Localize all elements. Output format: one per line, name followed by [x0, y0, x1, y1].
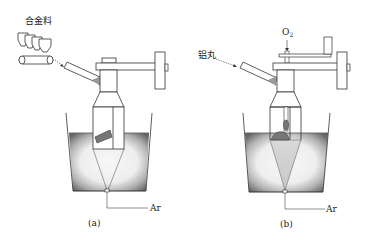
argon-line: [107, 192, 148, 208]
argon-label-b: Ar: [326, 205, 337, 214]
snorkel-neck-b: [277, 70, 294, 92]
panel-a: [18, 33, 168, 208]
top-cap: [102, 58, 116, 63]
alloy-material-label: 合金料: [25, 17, 52, 26]
counterweight-disc-b: [337, 52, 347, 89]
oxygen-subscript: 2: [289, 31, 293, 38]
snorkel-flare-b: [270, 92, 301, 107]
snorkel-flare: [93, 92, 124, 107]
al-feed-arrow: [216, 59, 235, 66]
argon-label-a: Ar: [150, 204, 161, 213]
caption-a: (a): [88, 219, 100, 228]
oxygen-label: O2: [282, 28, 293, 38]
counterweight-disc: [155, 52, 165, 89]
conveyor-belt: [19, 56, 53, 64]
aluminum-shot-label: 铝丸: [198, 51, 216, 60]
lance-carriage: [279, 54, 331, 57]
snorkel-neck: [100, 70, 117, 92]
diagram-svg: [0, 0, 368, 243]
panel-b: [216, 37, 350, 209]
argon-line-b: [285, 193, 325, 209]
porous-plug-b: [283, 190, 287, 193]
alloy-hoppers: [18, 33, 51, 52]
diagram-canvas: 合金料 Ar (a) 铝丸 O2 Ar (b): [0, 0, 368, 243]
arm-b: [273, 63, 338, 70]
arm: [96, 63, 160, 70]
caption-b: (b): [280, 220, 293, 229]
porous-plug: [105, 189, 109, 192]
